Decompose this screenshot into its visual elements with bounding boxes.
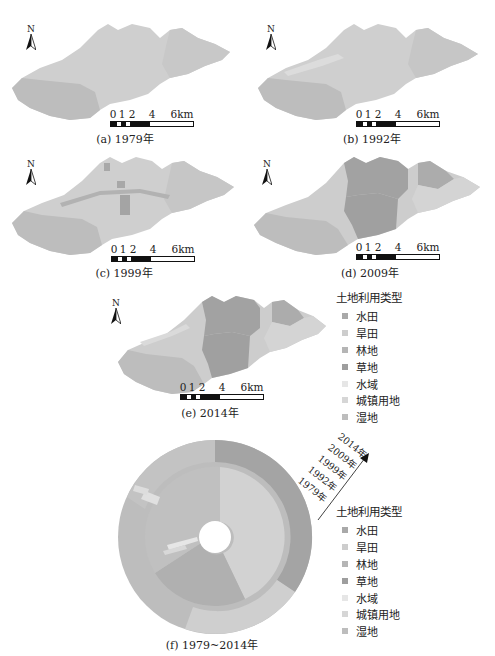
scale-label: 1 <box>365 108 372 120</box>
legend-label: 旱田 <box>356 539 378 555</box>
scale-label: 2 <box>130 243 137 255</box>
north-arrow: N <box>23 159 39 185</box>
legend-item-urban: 城镇用地 <box>336 606 402 623</box>
legend-item-paddy: 水田 <box>336 522 402 539</box>
scale-label: 6km <box>241 381 264 393</box>
legend-label: 水田 <box>356 522 378 538</box>
legend-item-urban: 城镇用地 <box>336 392 402 409</box>
caption-d: (d) 2009年 <box>341 264 399 280</box>
legend-label: 草地 <box>356 359 378 375</box>
legend-item-wetland: 湿地 <box>336 409 402 426</box>
caption-a: (a) 1979年 <box>96 130 154 146</box>
legend-label: 城镇用地 <box>356 392 400 408</box>
scale-label: 0 <box>180 381 187 393</box>
swatch-icon <box>342 364 348 370</box>
scale-label: 1 <box>119 108 126 120</box>
legend-label: 草地 <box>356 573 378 589</box>
scale-label: 0 <box>356 241 363 253</box>
legend-label: 林地 <box>356 556 378 572</box>
scale-bar-graphic <box>110 121 194 127</box>
scale-label: 0 <box>110 108 117 120</box>
swatch-icon <box>342 628 348 634</box>
swatch-icon <box>342 330 348 336</box>
scale-bar-graphic <box>356 121 440 127</box>
legend-label: 水域 <box>356 376 378 392</box>
scale-label: 6km <box>417 108 440 120</box>
scale-bar: 0 1 2 4 6km <box>356 108 440 127</box>
legend-item-paddy: 水田 <box>336 308 402 325</box>
caption-b: (b) 1992年 <box>343 130 401 146</box>
scale-bar: 0 1 2 4 6km <box>111 243 195 262</box>
north-arrow-icon <box>111 308 121 324</box>
scale-label: 6km <box>171 108 194 120</box>
scale-bar-graphic <box>111 256 195 262</box>
swatch-icon <box>342 578 348 584</box>
legend-item-forest: 林地 <box>336 556 402 573</box>
swatch-icon <box>342 611 348 617</box>
map-legend: 土地利用类型 水田 旱田 林地 草地 水域 城镇用地 湿地 <box>336 289 402 426</box>
north-label: N <box>23 159 39 169</box>
swatch-icon <box>342 397 348 403</box>
legend-item-forest: 林地 <box>336 342 402 359</box>
scale-label: 0 <box>356 108 363 120</box>
scale-label: 1 <box>365 241 372 253</box>
sunburst-chart <box>0 425 495 656</box>
scale-label: 2 <box>375 108 382 120</box>
legend-label: 城镇用地 <box>356 606 400 622</box>
scale-label: 1 <box>120 243 127 255</box>
legend-label: 林地 <box>356 342 378 358</box>
north-label: N <box>263 24 279 34</box>
scale-label: 1 <box>189 381 196 393</box>
swatch-icon <box>342 381 348 387</box>
legend-label: 旱田 <box>356 325 378 341</box>
north-label: N <box>259 159 275 169</box>
legend-item-dry-farmland: 旱田 <box>336 325 402 342</box>
scale-label: 4 <box>219 381 226 393</box>
scale-bar: 0 1 2 4 6km <box>180 381 264 400</box>
north-label: N <box>108 298 124 308</box>
caption-c: (c) 1999年 <box>95 264 152 280</box>
swatch-icon <box>342 527 348 533</box>
legend-label: 湿地 <box>356 409 378 425</box>
north-label: N <box>23 24 39 34</box>
scale-label: 6km <box>417 241 440 253</box>
legend-item-water: 水域 <box>336 589 402 606</box>
legend-label: 湿地 <box>356 623 378 639</box>
scale-label: 4 <box>395 241 402 253</box>
north-arrow-icon <box>262 169 272 185</box>
legend-item-dry-farmland: 旱田 <box>336 539 402 556</box>
map-panel-e: N 0 1 2 4 6km (e) 2014年 <box>110 280 330 425</box>
scale-label: 4 <box>395 108 402 120</box>
legend-item-wetland: 湿地 <box>336 623 402 640</box>
legend-item-grassland: 草地 <box>336 358 402 375</box>
swatch-icon <box>342 347 348 353</box>
scale-label: 0 <box>111 243 118 255</box>
north-arrow: N <box>259 159 275 185</box>
north-arrow: N <box>263 24 279 50</box>
sunburst-legend: 土地利用类型 水田 旱田 林地 草地 水域 城镇用地 湿地 <box>336 503 402 640</box>
sunburst-panel: 1979年 1992年 1999年 2009年 2014年 (f) 1979~2… <box>0 425 495 656</box>
scale-label: 2 <box>129 108 136 120</box>
legend-item-grassland: 草地 <box>336 572 402 589</box>
scale-label: 4 <box>149 108 156 120</box>
legend-item-water: 水域 <box>336 375 402 392</box>
scale-label: 4 <box>150 243 157 255</box>
map-panel-b: N 0 1 2 4 6km (b) 1992年 <box>248 0 495 145</box>
map-panel-d: N 0 1 2 4 6km (d) 2009年 <box>248 145 495 280</box>
scale-bar-graphic <box>180 394 264 400</box>
scale-bar-graphic <box>356 254 440 260</box>
north-arrow: N <box>23 24 39 50</box>
scale-label: 6km <box>172 243 195 255</box>
map-panel-c: N 0 1 2 4 6km (c) 1999年 <box>0 145 247 280</box>
swatch-icon <box>342 414 348 420</box>
north-arrow: N <box>108 298 124 324</box>
north-arrow-icon <box>266 34 276 50</box>
scale-label: 2 <box>375 241 382 253</box>
scale-bar: 0 1 2 4 6km <box>110 108 194 127</box>
north-arrow-icon <box>26 169 36 185</box>
north-arrow-icon <box>26 34 36 50</box>
legend-title: 土地利用类型 <box>336 289 402 305</box>
legend-label: 水田 <box>356 308 378 324</box>
map-panel-a: N 0 1 2 4 6km (a) 1979年 <box>0 0 247 145</box>
legend-title: 土地利用类型 <box>336 503 402 519</box>
